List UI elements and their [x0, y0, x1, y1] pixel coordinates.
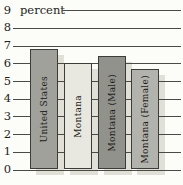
- bar-label: Montana (Female): [140, 75, 150, 163]
- y-tick-label: 1: [0, 144, 11, 159]
- y-tick-label: 5: [0, 74, 11, 89]
- bar: Montana (Male): [98, 56, 126, 169]
- bar: United States: [30, 49, 58, 169]
- y-tick-label: 2: [0, 127, 11, 142]
- bar-chart: percent 0123456789United StatesMontanaMo…: [0, 0, 183, 185]
- bar-label: United States: [39, 76, 49, 142]
- y-tick-label: 7: [0, 38, 11, 53]
- bar-label: Montana: [73, 95, 83, 138]
- bar-label: Montana (Male): [107, 74, 117, 151]
- y-axis-title: percent: [20, 3, 65, 18]
- y-tick-label: 0: [0, 162, 11, 177]
- bar: Montana (Female): [131, 69, 159, 170]
- y-tick-label: 3: [0, 109, 11, 124]
- y-tick-label: 8: [0, 20, 11, 35]
- bar: Montana: [64, 63, 92, 169]
- y-gridline: [62, 10, 181, 11]
- y-tick-label: 4: [0, 91, 11, 106]
- y-gridline: [13, 46, 181, 47]
- y-gridline: [13, 28, 181, 29]
- y-tick-label: 6: [0, 56, 11, 71]
- y-tick-label: 9: [0, 3, 11, 18]
- y-gridline: [13, 170, 181, 171]
